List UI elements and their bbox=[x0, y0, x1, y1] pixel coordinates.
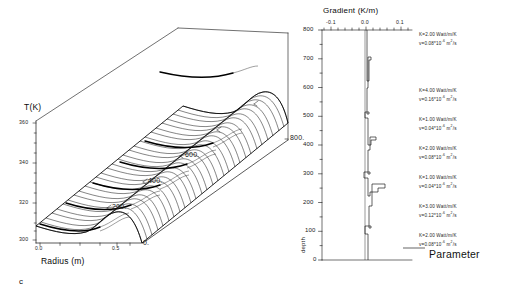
layer-7-unit-post: /s bbox=[453, 242, 457, 247]
layer-6-diffusivity: v=0.12*10-6 m2/s bbox=[419, 210, 457, 219]
layer-6-diffusivity-pre: v=0.12*10 bbox=[419, 213, 442, 218]
depth-tick-300: 300 bbox=[303, 170, 314, 176]
layer-3-diffusivity: v=0.04*10-6 m2/s bbox=[419, 123, 457, 132]
parameter-block-layer-1: K=2.00 Watt/m/K v=0.08*10-6 m2/s bbox=[419, 32, 457, 47]
parameter-block-layer-4: K=2.00 Watt/m/K v=0.08*10-6 m2/s bbox=[419, 146, 457, 161]
layer-3-diffusivity-pre: v=0.04*10 bbox=[419, 126, 442, 131]
parameter-block-layer-7: K=2.00 Watt/m/K v=0.08*10-6 m2/s bbox=[419, 233, 457, 248]
depth-tick-0: 0 bbox=[313, 256, 317, 262]
layer-6-unit-post: /s bbox=[453, 213, 457, 218]
layer-2-diffusivity-pre: v=0.16*10 bbox=[419, 97, 442, 102]
depth-tick-800: 800 bbox=[303, 26, 314, 32]
gradient-profile-curve bbox=[364, 30, 385, 260]
gradient-title: Gradient (K/m) bbox=[323, 6, 378, 15]
parameter-block-layer-6: K=3.00 Watt/m/K v=0.12*10-6 m2/s bbox=[419, 204, 457, 219]
parameter-block-layer-5: K=1.00 Watt/m/K v=0.04*10-6 m2/s bbox=[419, 175, 457, 190]
gradient-tick-max: 0.1 bbox=[396, 19, 404, 25]
gradient-tick-mid: 0.0 bbox=[361, 19, 369, 25]
depth-tick-400: 400 bbox=[303, 141, 314, 147]
depth-tick-700: 700 bbox=[303, 55, 314, 61]
layer-5-diffusivity: v=0.04*10-6 m2/s bbox=[419, 181, 457, 190]
depth-tick-100: 100 bbox=[305, 227, 316, 233]
layer-3-unit-post: /s bbox=[453, 126, 457, 131]
layer-1-diffusivity: v=0.08*10-6 m2/s bbox=[419, 38, 457, 47]
layer-4-diffusivity-pre: v=0.08*10 bbox=[419, 155, 442, 160]
parameter-header: Parameter bbox=[429, 248, 480, 260]
layer-5-diffusivity-pre: v=0.04*10 bbox=[419, 184, 442, 189]
parameter-block-layer-2: K=4.00 Watt/m/K v=0.16*10-6 m2/s bbox=[419, 88, 457, 103]
depth-tick-600: 600 bbox=[303, 84, 314, 90]
layer-7-diffusivity: v=0.08*10-6 m2/s bbox=[419, 239, 457, 248]
depth-tick-500: 500 bbox=[303, 112, 314, 118]
layer-1-diffusivity-pre: v=0.08*10 bbox=[419, 41, 442, 46]
layer-1-unit-post: /s bbox=[453, 41, 457, 46]
gradient-tick-min: -0.1 bbox=[326, 19, 336, 25]
layer-2-unit-post: /s bbox=[453, 97, 457, 102]
layer-5-unit-post: /s bbox=[453, 184, 457, 189]
layer-2-diffusivity: v=0.16*10-6 m2/s bbox=[419, 94, 457, 103]
layer-7-diffusivity-pre: v=0.08*10 bbox=[419, 242, 442, 247]
figure-root: T(K) 360 340 320 300 0.0 0.5 Radius (m) … bbox=[0, 0, 511, 301]
depth-axis-label: depth bbox=[300, 237, 306, 253]
depth-tick-200: 200 bbox=[303, 199, 314, 205]
layer-4-diffusivity: v=0.08*10-6 m2/s bbox=[419, 152, 457, 161]
layer-4-unit-post: /s bbox=[453, 155, 457, 160]
parameter-block-layer-3: K=1.00 Watt/m/K v=0.04*10-6 m2/s bbox=[419, 117, 457, 132]
